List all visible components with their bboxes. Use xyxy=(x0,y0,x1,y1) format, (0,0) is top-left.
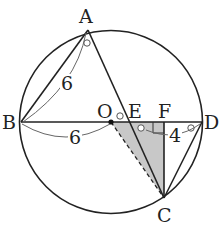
angle-mark-E2 xyxy=(138,125,144,131)
label-B: B xyxy=(2,111,16,133)
label-C: C xyxy=(157,204,172,226)
diagram-canvas: A B C D O E F 6 6 4 xyxy=(0,0,224,226)
measure-BO: 6 xyxy=(69,126,81,148)
measure-FD: 4 xyxy=(169,124,181,146)
angle-mark-E xyxy=(117,113,123,119)
measure-AB: 6 xyxy=(61,72,73,94)
label-A: A xyxy=(78,5,93,27)
label-E: E xyxy=(128,100,142,122)
measure-arc-BO xyxy=(22,124,110,137)
geometry-diagram: A B C D O E F 6 6 4 xyxy=(0,0,224,226)
label-F: F xyxy=(158,100,171,122)
label-D: D xyxy=(204,111,219,133)
label-O: O xyxy=(97,100,113,122)
